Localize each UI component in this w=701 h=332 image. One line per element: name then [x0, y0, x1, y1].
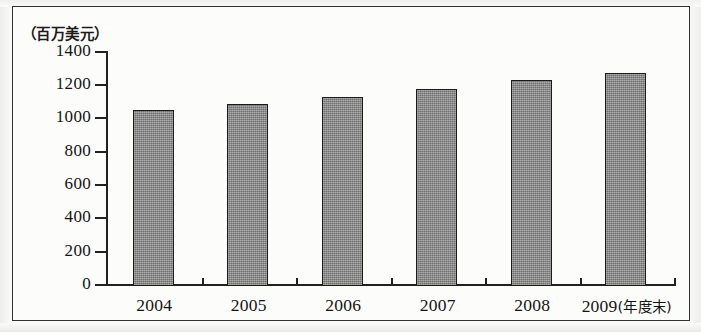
bar-2007 — [416, 89, 457, 286]
y-axis-tick-label: 0 — [13, 274, 91, 294]
bar-chart-figure: （百万美元） 0200400600800100012001400 2004200… — [0, 0, 701, 332]
y-axis-tick-label: 1400 — [13, 41, 91, 61]
y-axis-tick-label: 600 — [13, 174, 91, 194]
y-axis-tick-label: 1000 — [13, 107, 91, 127]
y-axis-tick-mark — [95, 151, 107, 153]
y-axis-tick-mark — [95, 251, 107, 253]
x-axis-tick-mark — [580, 278, 582, 286]
y-axis-tick-label: 800 — [13, 141, 91, 161]
x-axis-tick-mark — [202, 278, 204, 286]
bar-2009 — [605, 73, 646, 286]
y-axis-tick-label: 200 — [13, 241, 91, 261]
bar-2008 — [511, 80, 552, 286]
x-axis-tick-mark — [674, 278, 676, 286]
x-axis-label-2005: 2005 — [202, 295, 297, 316]
y-axis-tick-mark — [95, 84, 107, 86]
x-axis-label-2006: 2006 — [296, 295, 391, 316]
x-axis-tick-mark — [391, 278, 393, 286]
bar-2005 — [227, 104, 268, 286]
y-axis-tick-label: 400 — [13, 207, 91, 227]
x-axis-label-2007: 2007 — [391, 295, 486, 316]
bar-2004 — [133, 110, 174, 286]
x-axis-tick-mark — [485, 278, 487, 286]
y-axis-tick-mark — [95, 217, 107, 219]
y-axis-tick-mark — [95, 184, 107, 186]
y-axis-tick-mark — [95, 117, 107, 119]
plot-area: 0200400600800100012001400 20042005200620… — [0, 0, 701, 332]
y-axis-tick-label: 1200 — [13, 74, 91, 94]
y-axis-tick-mark — [95, 51, 107, 53]
x-axis-label-2004: 2004 — [107, 295, 202, 316]
x-axis-tick-mark — [296, 278, 298, 286]
y-axis-tick-mark — [95, 284, 107, 286]
x-axis-label-2009: 2009(年度末) — [562, 295, 693, 317]
bar-2006 — [322, 97, 363, 286]
